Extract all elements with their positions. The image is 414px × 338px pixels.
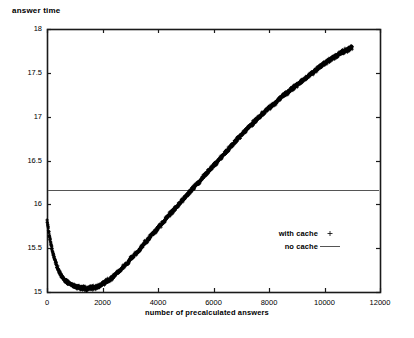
x-axis-tick-label: 8000 [244, 299, 294, 307]
chart-figure: answer time 1515.51616.51717.51802000400… [0, 0, 414, 338]
x-axis-tick-label: 2000 [78, 299, 128, 307]
y-axis-tick-label: 18 [34, 25, 42, 33]
legend-marker-plus-icon [328, 231, 333, 236]
y-axis-tick-label: 15 [34, 288, 42, 296]
plot-frame [48, 30, 381, 293]
y-axis-tick-label: 16.5 [27, 157, 42, 165]
y-axis-tick-label: 16 [34, 200, 42, 208]
x-axis-tick-label: 0 [22, 299, 72, 307]
y-axis-tick-label: 15.5 [27, 244, 42, 252]
with-cache-scatter [46, 44, 354, 292]
plot-canvas [0, 0, 414, 338]
legend-item-label: with cache [279, 230, 318, 238]
legend-item-label: no cache [285, 243, 318, 251]
y-axis-tick-label: 17.5 [27, 69, 42, 77]
x-axis-tick-label: 10000 [300, 299, 350, 307]
x-axis-tick-label: 12000 [355, 299, 405, 307]
x-axis-tick-label: 6000 [189, 299, 239, 307]
x-axis-tick-label: 4000 [133, 299, 183, 307]
y-axis-tick-label: 17 [34, 113, 42, 121]
x-axis-label: number of precalculated answers [0, 308, 414, 317]
page-title: answer time [12, 6, 60, 15]
